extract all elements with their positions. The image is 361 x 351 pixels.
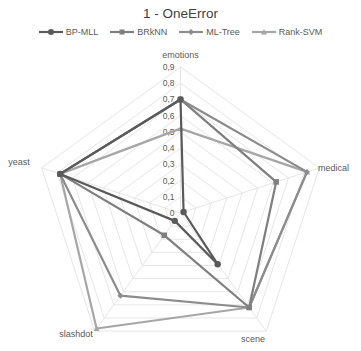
data-point-marker: [246, 305, 252, 311]
data-point-marker: [57, 171, 63, 177]
data-point-marker: [161, 233, 167, 239]
axis-label-slashdot: slashdot: [59, 329, 93, 339]
radar-chart: 00,10,20,30,40,50,60,70,80,9emotionsmedi…: [0, 0, 361, 351]
tick-label: 0,6: [163, 111, 175, 121]
data-point-marker: [180, 209, 186, 215]
tick-label: 0: [170, 208, 175, 218]
axis-label-scene: scene: [241, 334, 265, 344]
data-point-marker: [177, 96, 183, 102]
data-point-marker: [172, 218, 178, 224]
data-point-marker: [273, 179, 279, 185]
axis-label-yeast: yeast: [8, 157, 30, 167]
tick-label: 0,4: [163, 143, 175, 153]
axis-label-medical: medical: [318, 163, 349, 173]
tick-label: 0,9: [163, 62, 175, 72]
axis-line: [181, 213, 267, 331]
axis-label-emotions: emotions: [162, 50, 199, 60]
tick-label: 0,2: [163, 176, 175, 186]
tick-label: 0,8: [163, 78, 175, 88]
data-point-marker: [214, 261, 220, 267]
tick-label: 0,1: [163, 192, 175, 202]
tick-label: 0,3: [163, 159, 175, 169]
